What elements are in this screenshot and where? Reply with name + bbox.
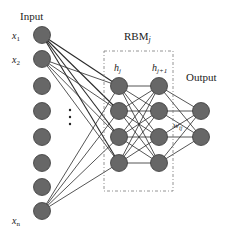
edge [42,59,119,111]
hj-label: hj [114,62,121,75]
weight-label: wij [173,120,183,131]
rbm-label: RBMj [124,30,151,44]
x2-label: x2 [11,54,20,67]
edge [42,163,119,211]
hidden-j1-node [151,103,168,120]
hidden-j-node [111,78,128,95]
input-node [34,203,51,220]
dbn-diagram: Input RBMj hj hj+1 Output wij x1 x2 xn [0,0,227,235]
input-node [34,27,51,44]
input-node [34,179,51,196]
ellipsis-dots [69,109,71,125]
edge [42,59,119,137]
hj1-label: hj+1 [152,62,167,75]
input-node [34,155,51,172]
hidden-j1-node [151,78,168,95]
input-node [34,129,51,146]
hidden-j-node [111,103,128,120]
edge [42,111,119,211]
hidden-j1-node [151,155,168,172]
output-node [193,129,210,146]
edge [42,35,119,137]
hidden-j-node [111,155,128,172]
x1-label: x1 [11,30,20,43]
output-node [193,103,210,120]
input-node [34,103,51,120]
output-label: Output [186,71,217,83]
input-node [34,51,51,68]
neuron-nodes [34,27,210,220]
edge [42,59,119,86]
hidden-j1-node [151,129,168,146]
input-node [34,78,51,95]
input-label: Input [20,10,43,22]
xn-label: xn [11,215,20,228]
hidden-j-node [111,129,128,146]
edge [42,59,119,163]
edge [42,35,119,86]
